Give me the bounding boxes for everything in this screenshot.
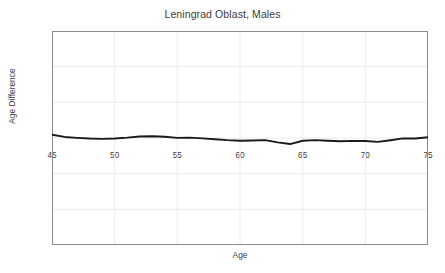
- x-axis-label: Age: [52, 250, 428, 260]
- y-axis-label: Age Difference: [7, 41, 17, 151]
- plot-svg: [52, 31, 428, 245]
- chart-title: Leningrad Oblast, Males: [0, 8, 445, 20]
- plot-area: [52, 31, 428, 245]
- chart-figure: Leningrad Oblast, Males Age Difference A…: [0, 0, 445, 273]
